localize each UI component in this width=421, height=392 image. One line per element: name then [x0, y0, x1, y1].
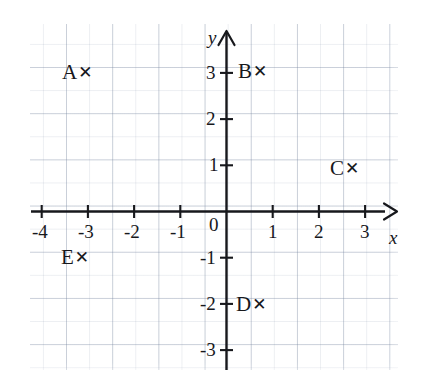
- x-tick-label-3: 3: [360, 222, 370, 241]
- y-tick-label--3: -3: [200, 340, 216, 359]
- x-tick-label-2: 2: [314, 222, 324, 241]
- y-tick-label-3: 3: [206, 63, 216, 82]
- x-axis-arrowhead: [384, 204, 397, 220]
- y-tick-label--2: -2: [200, 294, 216, 313]
- y-tick-label--1: -1: [200, 248, 216, 267]
- x-axis-label: x: [389, 228, 397, 247]
- cross-marker-icon: ✕: [253, 63, 267, 80]
- y-axis-label: y: [208, 28, 216, 47]
- cross-marker-icon: ✕: [345, 160, 359, 177]
- point-label-b: B: [238, 61, 252, 82]
- plotted-point-a: A ✕: [62, 62, 92, 83]
- y-tick-label-1: 1: [209, 155, 219, 174]
- plotted-point-e: E ✕: [61, 247, 89, 268]
- x-tick-label--3: -3: [78, 222, 94, 241]
- plotted-point-d: D ✕: [236, 294, 266, 315]
- cross-marker-icon: ✕: [75, 249, 89, 266]
- plotted-point-c: C ✕: [330, 158, 359, 179]
- x-tick-label--1: -1: [170, 222, 186, 241]
- point-label-c: C: [330, 158, 344, 179]
- coordinate-plane-figure: -4 -3 -2 -1 0 1 2 3 3 2 1 -1 -2 -3 x y A…: [0, 0, 421, 392]
- origin-label: 0: [209, 215, 219, 234]
- cross-marker-icon: ✕: [78, 64, 92, 81]
- axes-layer: [0, 0, 421, 392]
- plotted-point-b: B ✕: [238, 61, 267, 82]
- point-label-e: E: [61, 247, 74, 268]
- y-tick-label-2: 2: [206, 109, 216, 128]
- point-label-a: A: [62, 62, 77, 83]
- x-tick-label--2: -2: [124, 222, 140, 241]
- x-tick-label-1: 1: [268, 222, 278, 241]
- cross-marker-icon: ✕: [252, 296, 266, 313]
- x-tick-label--4: -4: [32, 222, 48, 241]
- point-label-d: D: [236, 294, 251, 315]
